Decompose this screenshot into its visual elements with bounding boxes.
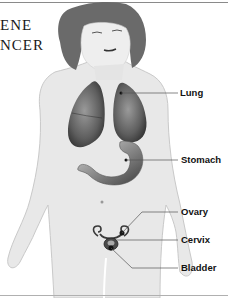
bottom-rule [0, 295, 228, 296]
label-cervix: Cervix [181, 234, 210, 245]
label-stomach: Stomach [181, 154, 221, 165]
anatomy-illustration [0, 0, 228, 298]
label-bladder: Bladder [181, 262, 216, 273]
label-ovary: Ovary [181, 206, 208, 217]
label-lung: Lung [180, 87, 203, 98]
